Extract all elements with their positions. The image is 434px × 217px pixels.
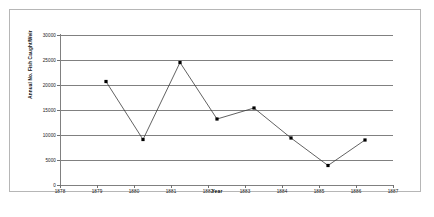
data-point-marker <box>141 138 144 141</box>
x-tick-mark <box>393 185 394 188</box>
x-tick-mark <box>134 185 135 188</box>
y-tick-label: 5000 <box>24 158 56 163</box>
chart-outer-frame: 050001000015000200002500030000 187818791… <box>9 9 421 192</box>
y-tick-mark <box>57 135 60 136</box>
series-line <box>106 63 365 166</box>
x-tick-mark <box>97 185 98 188</box>
data-point-marker <box>178 61 181 64</box>
y-tick-mark <box>57 160 60 161</box>
chart-figure: 050001000015000200002500030000 187818791… <box>0 0 434 217</box>
y-tick-label: 0 <box>24 183 56 188</box>
data-point-marker <box>289 136 292 139</box>
x-tick-mark <box>208 185 209 188</box>
x-tick-mark <box>245 185 246 188</box>
gridline <box>60 110 393 111</box>
y-tick-mark <box>57 85 60 86</box>
gridline <box>60 35 393 36</box>
data-point-marker <box>363 138 366 141</box>
gridline <box>60 60 393 61</box>
x-tick-mark <box>356 185 357 188</box>
gridline <box>60 135 393 136</box>
y-tick-mark <box>57 110 60 111</box>
x-tick-mark <box>319 185 320 188</box>
x-axis-line <box>60 185 393 186</box>
data-point-marker <box>326 164 329 167</box>
x-tick-mark <box>282 185 283 188</box>
x-axis-title: Year <box>0 189 434 194</box>
data-point-marker <box>215 117 218 120</box>
y-tick-mark <box>57 35 60 36</box>
gridline <box>60 160 393 161</box>
x-tick-mark <box>171 185 172 188</box>
y-axis-title: Annual No. Fish Caught/Weir <box>28 19 33 111</box>
x-tick-mark <box>60 185 61 188</box>
y-tick-label: 10000 <box>24 133 56 138</box>
data-point-marker <box>104 80 107 83</box>
gridline <box>60 85 393 86</box>
series-markers <box>104 61 366 167</box>
y-tick-mark <box>57 60 60 61</box>
